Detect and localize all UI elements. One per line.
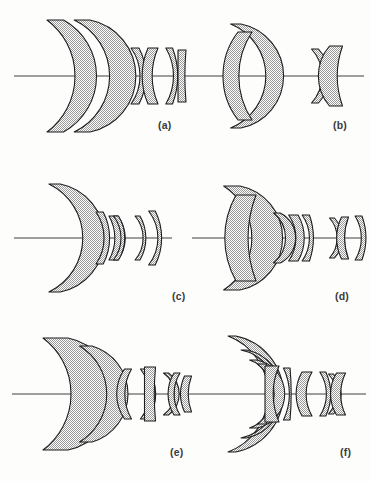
panel-label-f: (f) xyxy=(340,446,351,458)
panel-label-b: (b) xyxy=(333,119,347,131)
panel-label-e: (e) xyxy=(170,446,183,458)
optical-lens-diagram-figure: (a)(b)(c)(d)(e)(f) xyxy=(0,0,371,481)
panel-label-c: (c) xyxy=(172,290,185,302)
lens-element-a-6-plano-convex xyxy=(178,50,186,102)
lens-group-d xyxy=(224,186,366,290)
panel-label-d: (d) xyxy=(335,290,349,302)
lens-elements-layer xyxy=(43,20,366,452)
panel-label-a: (a) xyxy=(158,119,171,131)
lens-diagram-canvas xyxy=(0,0,371,481)
lens-element-e-5-plano-convex xyxy=(145,367,156,421)
